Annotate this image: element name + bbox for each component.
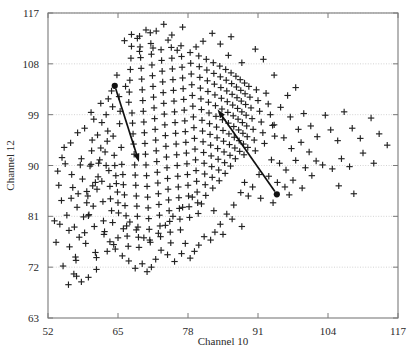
- y-tick-label: 90: [28, 160, 40, 172]
- data-point: [222, 170, 228, 176]
- data-point: [238, 87, 244, 93]
- data-point: [246, 83, 252, 89]
- data-point: [165, 197, 171, 203]
- data-point: [164, 175, 170, 181]
- data-point: [152, 256, 158, 262]
- y-tick-label: 99: [28, 109, 40, 121]
- arrowhead: [218, 110, 225, 119]
- data-point: [128, 31, 134, 37]
- data-point: [67, 140, 73, 146]
- data-point: [327, 127, 333, 133]
- data-point: [218, 84, 224, 90]
- data-point: [274, 179, 280, 185]
- data-point: [153, 28, 159, 34]
- data-point: [200, 149, 206, 155]
- data-point: [212, 92, 218, 98]
- data-point: [149, 62, 155, 68]
- data-point: [193, 44, 199, 50]
- data-point: [250, 126, 256, 132]
- data-point: [314, 133, 320, 139]
- data-point: [229, 91, 235, 97]
- y-axis-title: Channel 12: [4, 140, 16, 190]
- data-point: [103, 111, 109, 117]
- data-point: [136, 48, 142, 54]
- data-point: [90, 203, 96, 209]
- data-point: [197, 85, 203, 91]
- data-point: [141, 130, 147, 136]
- data-point: [251, 137, 257, 143]
- data-point: [298, 139, 304, 145]
- data-point: [115, 235, 121, 241]
- data-point: [244, 133, 250, 139]
- data-point: [161, 111, 167, 117]
- data-point: [139, 261, 145, 267]
- data-point: [158, 57, 164, 63]
- data-point: [162, 222, 168, 228]
- data-point: [93, 254, 99, 260]
- data-point: [135, 224, 141, 230]
- data-point: [169, 55, 175, 61]
- data-point: [236, 148, 242, 154]
- data-point: [141, 235, 147, 241]
- data-point: [265, 101, 271, 107]
- data-point: [241, 152, 247, 158]
- data-point: [162, 132, 168, 138]
- data-point: [207, 142, 213, 148]
- data-point: [74, 204, 80, 210]
- data-point: [198, 201, 204, 207]
- data-point: [194, 189, 200, 195]
- data-point: [187, 255, 193, 261]
- data-point: [60, 263, 66, 269]
- data-point: [207, 237, 213, 243]
- data-point: [295, 126, 301, 132]
- data-point: [218, 95, 224, 101]
- data-point: [81, 125, 87, 131]
- data-point: [84, 188, 90, 194]
- data-point: [232, 145, 238, 151]
- data-point: [166, 207, 172, 213]
- data-point: [239, 60, 245, 66]
- data-point: [281, 135, 287, 141]
- data-point: [220, 138, 226, 144]
- data-point: [193, 178, 199, 184]
- data-point: [134, 213, 140, 219]
- data-point: [168, 240, 174, 246]
- data-point: [116, 121, 122, 127]
- data-point: [260, 56, 266, 62]
- data-point: [220, 127, 226, 133]
- data-point: [322, 112, 328, 118]
- data-point: [129, 120, 135, 126]
- data-point: [180, 96, 186, 102]
- data-point: [226, 141, 232, 147]
- data-point: [204, 67, 210, 73]
- data-point: [137, 54, 143, 60]
- data-point: [384, 142, 390, 148]
- data-point: [151, 105, 157, 111]
- data-point: [179, 24, 185, 30]
- data-point: [53, 239, 59, 245]
- data-point: [178, 53, 184, 59]
- data-point: [170, 76, 176, 82]
- data-point: [204, 78, 210, 84]
- data-point: [201, 233, 207, 239]
- data-point: [186, 214, 192, 220]
- data-point: [147, 30, 153, 36]
- data-point: [68, 171, 74, 177]
- data-point: [123, 213, 129, 219]
- x-tick-label: 65: [113, 325, 125, 337]
- data-point: [113, 172, 119, 178]
- data-point: [126, 258, 132, 264]
- data-point: [156, 212, 162, 218]
- data-point: [196, 242, 202, 248]
- data-point: [108, 207, 114, 213]
- y-tick-label: 72: [28, 261, 39, 273]
- data-point: [57, 221, 63, 227]
- data-point: [76, 234, 82, 240]
- data-point: [232, 156, 238, 162]
- data-point: [128, 55, 134, 61]
- data-point: [146, 226, 152, 232]
- data-point: [182, 240, 188, 246]
- data-point: [290, 177, 296, 183]
- data-point: [142, 140, 148, 146]
- data-point: [215, 156, 221, 162]
